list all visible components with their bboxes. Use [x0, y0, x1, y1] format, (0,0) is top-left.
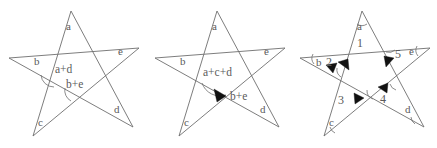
vertex-label-c: c [184, 116, 189, 128]
angle-arc-inner-cd [337, 68, 341, 77]
annotation-b-plus-e: b+e [230, 90, 247, 102]
angle-arc-inner-ce [390, 84, 396, 90]
vertex-label-a: a [66, 20, 71, 32]
pentagram-figure-1: a b c d e a+d b+e [0, 0, 146, 148]
region-label-3: 3 [338, 93, 344, 107]
region-label-2: 2 [326, 55, 332, 69]
region-label-4: 4 [380, 92, 386, 106]
annotation-b-plus-e: b+e [66, 78, 83, 90]
vertex-labels-1: a b c d e [34, 20, 123, 128]
vertex-label-e: e [409, 45, 414, 57]
angle-arc-point-e [416, 46, 418, 56]
chord-c-e [33, 48, 139, 136]
vertex-label-c: c [329, 116, 334, 128]
figure-strip: a b c d e a+d b+e [0, 0, 437, 148]
star-outline-3 [300, 11, 430, 136]
angle-arc-point-b [312, 54, 314, 64]
region-label-5: 5 [395, 47, 401, 61]
angle-wedge-b-plus-e [214, 89, 226, 102]
vertex-label-b: b [180, 55, 186, 67]
annotation-a-plus-c-plus-d: a+c+d [203, 66, 232, 78]
vertex-label-a: a [357, 20, 362, 32]
pentagram-figure-2: a b c d e a+c+d b+e [146, 0, 292, 148]
region-label-1: 1 [357, 36, 363, 50]
annotation-a-plus-d: a+d [55, 63, 73, 75]
angle-wedge-pentagon-top-left [338, 59, 349, 70]
vertex-label-b: b [34, 55, 40, 67]
vertex-label-e: e [118, 45, 123, 57]
vertex-label-c: c [38, 116, 43, 128]
vertex-label-d: d [260, 103, 266, 115]
vertex-label-b: b [316, 56, 322, 68]
pentagram-figure-3: a b c d e 1 2 3 4 5 [291, 0, 437, 148]
vertex-label-d: d [114, 103, 120, 115]
vertex-label-d: d [405, 103, 411, 115]
angle-wedge-pentagon-bottom [354, 93, 364, 104]
angle-wedge-pentagon-top-right [384, 56, 394, 67]
chord-c-e [324, 48, 430, 136]
vertex-label-e: e [264, 45, 269, 57]
star-outline-1 [9, 11, 139, 136]
angle-markers-3 [312, 24, 418, 133]
vertex-label-a: a [212, 20, 217, 32]
